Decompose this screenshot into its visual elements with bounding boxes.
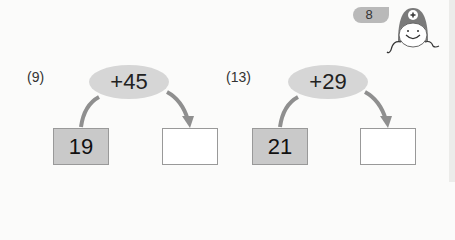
answer-box[interactable] [162, 128, 218, 165]
problem-label: (13) [226, 69, 251, 85]
start-value-box: 21 [252, 128, 308, 165]
operation-bubble: +45 [89, 65, 169, 99]
problem-label: (9) [27, 69, 44, 85]
operation-bubble: +29 [288, 65, 368, 99]
answer-box[interactable] [360, 128, 416, 165]
start-value-box: 19 [53, 128, 109, 165]
